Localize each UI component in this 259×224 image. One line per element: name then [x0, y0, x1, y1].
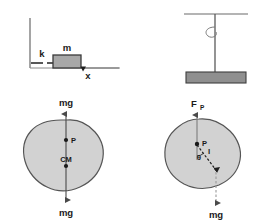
pivot-point-dot-left: [64, 138, 68, 142]
panel-pendulum-rod: [184, 14, 248, 83]
force-label-top-left: mg: [59, 97, 73, 108]
pivot-force-label: F: [191, 98, 197, 109]
panel-blob-right: F P P θ l mg: [165, 98, 241, 220]
physics-diagram-canvas: k m x: [0, 0, 259, 224]
spring-constant-label: k: [39, 48, 45, 59]
panel-blob-left: mg P CM mg: [24, 97, 104, 218]
pivot-point-label-right: P: [202, 139, 207, 148]
mass-label: m: [63, 42, 71, 53]
weight-label-right: mg: [209, 209, 223, 220]
center-of-mass-dot-left: [64, 164, 68, 168]
distance-label: l: [208, 147, 210, 156]
figure-root: k m x: [0, 0, 259, 224]
angle-label: θ: [197, 153, 201, 162]
mass-block: [53, 55, 81, 68]
panel-spring-mass: k m x: [30, 18, 120, 81]
horizontal-bar: [186, 72, 246, 83]
force-label-bottom-left: mg: [59, 207, 73, 218]
x-axis-label: x: [85, 70, 91, 81]
pivot-force-subscript: P: [200, 104, 205, 111]
pivot-point-label-left: P: [71, 136, 76, 145]
center-of-mass-label-left: CM: [60, 155, 72, 164]
